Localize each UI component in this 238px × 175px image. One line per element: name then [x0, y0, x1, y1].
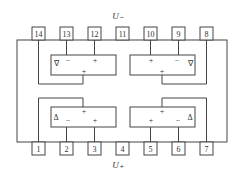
amp-triangle-icon: Δ [53, 113, 58, 122]
supply-positive-label: U₊ [112, 160, 124, 170]
pin-label: 13 [63, 30, 71, 39]
plus-sign: + [93, 116, 98, 125]
minus-sign: − [66, 116, 71, 125]
pin-label: 4 [121, 145, 125, 154]
pin-label: 10 [147, 30, 155, 39]
pin-label: 12 [91, 30, 99, 39]
pin-label: 7 [205, 145, 209, 154]
amp-triangle-icon: ∇ [187, 59, 194, 68]
pin-label: 1 [37, 145, 41, 154]
pin-label: 3 [93, 145, 97, 154]
plus-sign: + [82, 67, 87, 76]
plus-sign: + [149, 116, 154, 125]
plus-sign: + [82, 107, 87, 116]
pin-label: 9 [177, 30, 181, 39]
minus-sign: − [176, 116, 181, 125]
amp-triangle-icon: Δ [187, 113, 192, 122]
plus-sign: + [160, 107, 165, 116]
plus-sign: + [149, 56, 154, 65]
pin-label: 8 [205, 30, 209, 39]
supply-negative-label: U₋ [112, 11, 124, 21]
minus-sign: − [175, 56, 180, 65]
pin-label: 11 [119, 30, 127, 39]
pin-label: 2 [65, 145, 69, 154]
quad-opamp-pinout-diagram: U₋ U₊ 14 13 12 11 10 9 8 1 2 3 4 5 6 7 ∇… [0, 0, 238, 175]
plus-sign: + [93, 56, 98, 65]
pin-label: 6 [177, 145, 181, 154]
minus-sign: − [66, 56, 71, 65]
pin-label: 5 [149, 145, 153, 154]
pin-label: 14 [35, 30, 43, 39]
amp-triangle-icon: ∇ [53, 59, 60, 68]
plus-sign: + [160, 67, 165, 76]
